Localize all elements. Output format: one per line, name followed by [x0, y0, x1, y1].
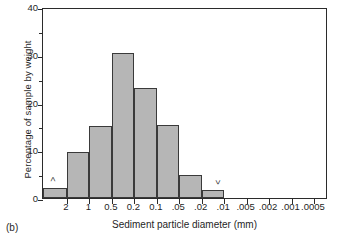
x-tick-label: 0.2: [127, 201, 140, 212]
x-tick-label: .001: [281, 201, 300, 212]
plot-area: ><: [42, 8, 327, 199]
y-tick-mark: [38, 9, 44, 10]
histogram-bar: [202, 190, 224, 198]
histogram-bar: [112, 53, 134, 198]
histogram-bar: [89, 126, 111, 198]
x-tick-label: 1: [86, 201, 91, 212]
x-tick-label: .005: [236, 201, 255, 212]
x-axis-tick-labels: 210.50.20.1.05.02.01.005.002.001.0005: [0, 201, 345, 217]
histogram-bars: [43, 9, 326, 198]
y-tick-mark-minor: [39, 81, 43, 82]
y-tick-label: 40: [16, 3, 38, 13]
less-than-annotation: <: [214, 180, 223, 185]
histogram-bar: [179, 175, 201, 198]
x-tick-label: .002: [259, 201, 278, 212]
x-tick-label: .01: [217, 201, 230, 212]
x-tick-label: .02: [194, 201, 207, 212]
histogram-bar: [134, 88, 156, 198]
histogram-bar: [43, 188, 67, 199]
y-tick-mark-minor: [39, 33, 43, 34]
y-tick-label: 10: [16, 146, 38, 156]
y-tick-mark: [38, 57, 44, 58]
x-tick-label: 2: [63, 201, 68, 212]
y-tick-label: 20: [16, 99, 38, 109]
x-axis-title: Sediment particle diameter (mm): [42, 219, 327, 230]
figure-panel: Percentage of sample by weight 010203040…: [0, 0, 345, 250]
y-tick-mark-minor: [39, 176, 43, 177]
y-tick-mark: [38, 105, 44, 106]
y-tick-mark: [38, 152, 44, 153]
x-tick-label: 0.1: [149, 201, 162, 212]
histogram-bar: [157, 125, 179, 198]
y-tick-mark-minor: [39, 128, 43, 129]
x-tick-label: .05: [172, 201, 185, 212]
panel-label: (b): [6, 222, 18, 233]
x-tick-label: .0005: [301, 201, 325, 212]
histogram-bar: [67, 152, 89, 198]
y-tick-label: 30: [16, 51, 38, 61]
x-tick-label: 0.5: [104, 201, 117, 212]
greater-than-annotation: >: [49, 177, 58, 182]
